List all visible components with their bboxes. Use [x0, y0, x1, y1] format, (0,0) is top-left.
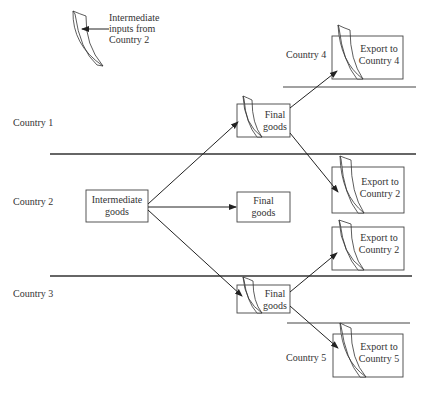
box-line-1: Intermediate [86, 194, 148, 206]
country-1-label: Country 1 [13, 117, 53, 129]
box-line-1: Final [237, 195, 290, 207]
arrow-to-export-country-2-upper [290, 133, 338, 192]
box-line-1: Export to [357, 176, 403, 188]
box-line-2: goods [261, 300, 289, 312]
legend-label: Intermediate inputs from Country 2 [109, 12, 160, 45]
arrow-to-export-country-2-lower [290, 253, 337, 292]
export-country-2-lower-text: Export to Country 2 [356, 232, 402, 256]
intermediate-goods-text: Intermediate goods [86, 194, 148, 218]
legend-line-3: Country 2 [109, 34, 160, 45]
country-5-label: Country 5 [286, 352, 326, 364]
box-line-1: Export to [356, 341, 402, 353]
export-country-2-upper-text: Export to Country 2 [357, 176, 403, 200]
box-line-2: Country 2 [356, 244, 402, 256]
box-line-1: Final [261, 109, 289, 121]
country-2-label: Country 2 [13, 196, 53, 208]
box-line-2: goods [261, 121, 289, 133]
box-line-1: Final [261, 288, 289, 300]
export-country-5-text: Export to Country 5 [356, 341, 402, 365]
country-4-label: Country 4 [286, 49, 326, 61]
box-line-2: Country 4 [356, 55, 402, 67]
legend-line-2: inputs from [109, 23, 160, 34]
final-goods-country-1-text: Final goods [261, 109, 289, 133]
folded-page-icon [73, 11, 103, 66]
arrow-to-export-country-5 [290, 306, 338, 348]
box-line-2: Country 2 [357, 188, 403, 200]
final-goods-country-2-text: Final goods [237, 195, 290, 219]
box-line-2: goods [237, 207, 290, 219]
country-3-label: Country 3 [13, 288, 53, 300]
box-line-2: Country 5 [356, 353, 402, 365]
box-line-2: goods [86, 206, 148, 218]
arrow-to-export-country-4 [290, 71, 337, 108]
arrow-to-final-goods-country-1 [148, 122, 238, 204]
box-line-1: Export to [356, 232, 402, 244]
legend-line-1: Intermediate [109, 12, 160, 23]
box-line-1: Export to [356, 43, 402, 55]
export-country-4-text: Export to Country 4 [356, 43, 402, 67]
final-goods-country-3-text: Final goods [261, 288, 289, 312]
arrow-to-final-goods-country-3 [148, 210, 242, 296]
